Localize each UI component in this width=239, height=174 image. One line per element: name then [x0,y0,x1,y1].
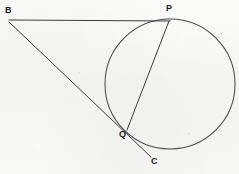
point-label-q: Q [119,130,126,139]
figure-canvas [0,0,239,174]
segment-bp [9,20,170,21]
point-label-b: B [5,6,12,15]
point-label-p: P [166,4,172,13]
segment-pq [127,21,169,130]
point-label-c: C [151,157,158,166]
segment-bc [9,22,151,157]
geometry-figure: B P Q C [0,0,239,174]
